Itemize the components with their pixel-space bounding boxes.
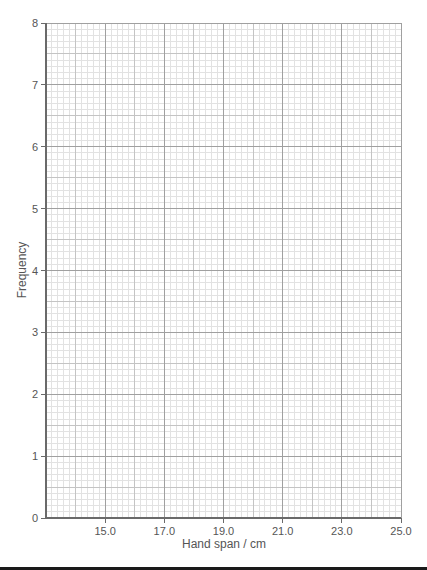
x-axis-ticks: 15.017.019.021.023.025.0 xyxy=(94,518,411,537)
y-axis-ticks: 012345678 xyxy=(32,17,46,524)
y-tick-label: 0 xyxy=(32,512,38,524)
y-tick-label: 4 xyxy=(32,265,38,277)
x-tick-label: 17.0 xyxy=(154,525,175,537)
y-tick-label: 1 xyxy=(32,450,38,462)
x-tick-label: 19.0 xyxy=(213,525,234,537)
histogram-grid-chart: 012345678 15.017.019.021.023.025.0 Hand … xyxy=(0,0,427,570)
y-tick-label: 3 xyxy=(32,326,38,338)
y-tick-label: 2 xyxy=(32,388,38,400)
y-tick-label: 6 xyxy=(32,141,38,153)
y-tick-label: 8 xyxy=(32,17,38,29)
y-tick-label: 7 xyxy=(32,79,38,91)
y-tick-label: 5 xyxy=(32,203,38,215)
x-tick-label: 23.0 xyxy=(331,525,352,537)
x-tick-label: 25.0 xyxy=(390,525,411,537)
x-axis-label: Hand span / cm xyxy=(182,537,266,551)
x-tick-label: 21.0 xyxy=(272,525,293,537)
y-axis-label: Frequency xyxy=(15,242,29,299)
graph-paper-grid xyxy=(46,23,401,518)
x-tick-label: 15.0 xyxy=(94,525,115,537)
